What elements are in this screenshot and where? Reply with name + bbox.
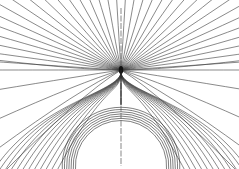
radial-field-lines <box>0 0 239 169</box>
diagram-canvas <box>0 0 239 169</box>
field-line-diagram <box>0 0 239 169</box>
